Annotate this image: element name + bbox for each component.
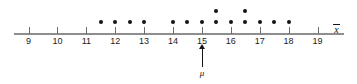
axis-tick-label: 13 bbox=[133, 36, 155, 46]
axis-tick-label: 16 bbox=[220, 36, 242, 46]
axis-tick-label: 17 bbox=[249, 36, 271, 46]
axis-tick bbox=[260, 27, 261, 34]
axis-tick-label: 11 bbox=[75, 36, 97, 46]
data-dot bbox=[243, 9, 247, 13]
axis-tick-label: 14 bbox=[162, 36, 184, 46]
axis-tick bbox=[173, 27, 174, 34]
mu-arrow-shaft bbox=[202, 49, 203, 67]
dotplot-figure: 910111213141516171819 x μ bbox=[0, 0, 357, 84]
axis-label-x-bar: x bbox=[333, 24, 340, 35]
axis-tick bbox=[289, 27, 290, 34]
data-dot bbox=[171, 20, 175, 24]
data-dot bbox=[185, 20, 189, 24]
data-dot bbox=[287, 20, 291, 24]
axis-tick-label: 19 bbox=[307, 36, 329, 46]
data-dot bbox=[214, 9, 218, 13]
data-dot bbox=[99, 20, 103, 24]
data-dot bbox=[258, 20, 262, 24]
data-dot bbox=[128, 20, 132, 24]
data-dot bbox=[142, 20, 146, 24]
data-dot bbox=[229, 20, 233, 24]
axis-tick bbox=[318, 27, 319, 34]
mu-label: μ bbox=[192, 68, 212, 78]
axis-tick-label: 12 bbox=[104, 36, 126, 46]
data-dot bbox=[113, 20, 117, 24]
axis-tick bbox=[144, 27, 145, 34]
axis-tick bbox=[86, 27, 87, 34]
axis-label-text: x bbox=[333, 25, 340, 35]
data-dot bbox=[214, 20, 218, 24]
number-line-axis bbox=[14, 33, 344, 35]
data-dot bbox=[200, 20, 204, 24]
axis-tick bbox=[202, 27, 203, 34]
axis-tick bbox=[231, 27, 232, 34]
axis-tick-label: 9 bbox=[18, 36, 40, 46]
axis-tick-label: 10 bbox=[46, 36, 68, 46]
data-dot bbox=[243, 20, 247, 24]
axis-tick bbox=[115, 27, 116, 34]
data-dot bbox=[272, 20, 276, 24]
axis-tick bbox=[57, 27, 58, 34]
axis-tick-label: 18 bbox=[278, 36, 300, 46]
axis-tick bbox=[29, 27, 30, 34]
